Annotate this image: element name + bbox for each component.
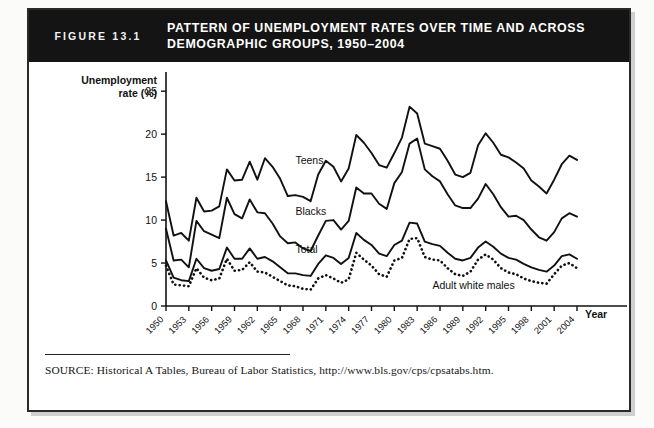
x-tick-label: 1989 <box>441 314 463 336</box>
y-tick-label: 15 <box>145 171 157 183</box>
x-tick-label: 1974 <box>327 314 349 336</box>
series-label-teens: Teens <box>295 154 323 166</box>
x-tick-label: 1986 <box>418 314 440 336</box>
figure-page: FIGURE 13.1 PATTERN OF UNEMPLOYMENT RATE… <box>0 0 654 428</box>
y-axis-ticks: 0510152025 <box>145 85 166 312</box>
x-tick-label: 1983 <box>395 314 417 336</box>
x-tick-label: 2004 <box>555 314 577 336</box>
unemployment-line-chart: 0510152025 19501953195619591962196519681… <box>29 62 629 352</box>
x-tick-label: 1992 <box>464 314 486 336</box>
figure-title: PATTERN OF UNEMPLOYMENT RATES OVER TIME … <box>167 20 629 52</box>
chart-series-lines <box>166 107 577 290</box>
x-tick-label: 1959 <box>212 314 234 336</box>
series-line-total <box>166 223 577 281</box>
x-tick-label: 1998 <box>509 314 531 336</box>
y-tick-label: 10 <box>145 214 157 226</box>
y-axis-title-line-2: rate (%) <box>118 87 157 99</box>
x-tick-label: 1965 <box>258 314 280 336</box>
series-line-teens <box>166 107 577 241</box>
y-tick-label: 5 <box>151 257 157 269</box>
source-rule <box>45 354 290 355</box>
figure-header: FIGURE 13.1 PATTERN OF UNEMPLOYMENT RATE… <box>29 10 629 62</box>
x-tick-label: 1977 <box>349 314 371 336</box>
series-label-blacks: Blacks <box>295 205 326 217</box>
x-tick-label: 1995 <box>486 314 508 336</box>
series-inline-labels: TeensBlacksTotalAdult white males <box>295 154 514 291</box>
y-axis-title-line-1: Unemployment <box>81 74 157 86</box>
y-tick-label: 20 <box>145 128 157 140</box>
figure-number: FIGURE 13.1 <box>29 30 167 42</box>
x-tick-label: 1950 <box>144 314 166 336</box>
x-tick-label: 1968 <box>281 314 303 336</box>
x-tick-label: 1956 <box>190 314 212 336</box>
figure-body: 0510152025 19501953195619591962196519681… <box>29 62 629 410</box>
x-tick-label: 1980 <box>372 314 394 336</box>
series-label-total: Total <box>295 243 317 255</box>
source-note: SOURCE: Historical A Tables, Bureau of L… <box>45 364 615 376</box>
series-label-adult-white-males: Adult white males <box>432 279 514 291</box>
y-tick-label: 0 <box>151 300 157 312</box>
x-tick-label: 1953 <box>167 314 189 336</box>
x-tick-label: 2001 <box>532 314 554 336</box>
x-tick-label: 1971 <box>304 314 326 336</box>
figure-title-line-1: PATTERN OF UNEMPLOYMENT RATES OVER TIME … <box>167 20 613 36</box>
x-axis-title: Year <box>585 308 607 320</box>
figure-title-line-2: DEMOGRAPHIC GROUPS, 1950–2004 <box>167 36 613 52</box>
chart-area: 0510152025 19501953195619591962196519681… <box>29 62 629 352</box>
x-axis-ticks: 1950195319561959196219651968197119741977… <box>144 306 577 336</box>
x-tick-label: 1962 <box>235 314 257 336</box>
